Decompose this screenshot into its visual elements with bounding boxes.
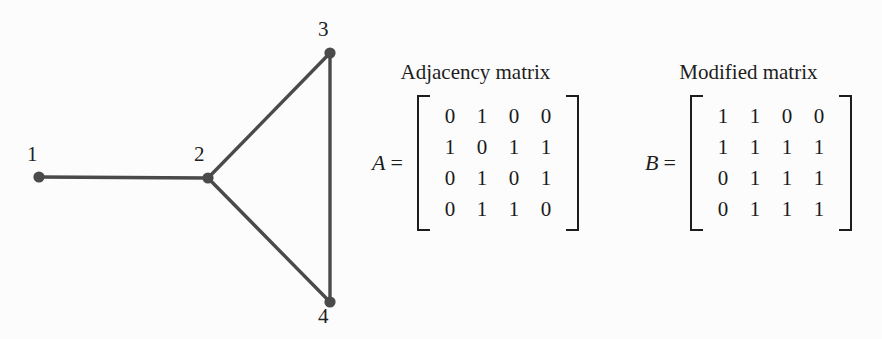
adjacency-matrix-brackets: 0100101101010110 — [417, 95, 579, 231]
graph-edge-group — [39, 53, 330, 302]
modified-matrix-cell-r2c2: 1 — [739, 132, 771, 163]
modified-matrix-row: 0111 — [707, 194, 835, 225]
adjacency-matrix-cell-r2c4: 1 — [530, 132, 562, 163]
modified-matrix-cell-r1c2: 1 — [739, 101, 771, 132]
modified-matrix-cell-r2c4: 1 — [803, 132, 835, 163]
adjacency-matrix-cell-r4c2: 1 — [466, 194, 498, 225]
modified-matrix-expression: B = 1100111101110111 — [645, 95, 852, 231]
adjacency-matrix-cell-r2c1: 1 — [434, 132, 466, 163]
adjacency-matrix-table: 0100101101010110 — [434, 101, 562, 225]
adjacency-matrix-cell-r4c4: 0 — [530, 194, 562, 225]
adjacency-matrix-cell-r1c2: 1 — [466, 101, 498, 132]
modified-matrix-block: Modified matrix B = 1100111101110111 — [645, 62, 852, 231]
figure-root: 1234 Adjacency matrix A = 01001011010101… — [0, 0, 882, 339]
modified-matrix-cell-r3c1: 0 — [707, 163, 739, 194]
modified-matrix-cell-r4c1: 0 — [707, 194, 739, 225]
modified-matrix-table: 1100111101110111 — [707, 101, 835, 225]
graph-node-label-2: 2 — [194, 144, 205, 165]
graph-node-label-3: 3 — [318, 19, 329, 40]
modified-matrix-cell-r4c2: 1 — [739, 194, 771, 225]
modified-matrix-row: 1100 — [707, 101, 835, 132]
adjacency-matrix-cell-r3c1: 0 — [434, 163, 466, 194]
adjacency-matrix-cell-r1c4: 0 — [530, 101, 562, 132]
modified-matrix-symbol: B — [645, 152, 663, 174]
adjacency-matrix-row: 0100 — [434, 101, 562, 132]
modified-matrix-brackets: 1100111101110111 — [690, 95, 852, 231]
adjacency-matrix-cell-r4c1: 0 — [434, 194, 466, 225]
graph-node-3 — [324, 47, 335, 58]
adjacency-matrix-expression: A = 0100101101010110 — [372, 95, 579, 231]
modified-matrix-cell-r2c3: 1 — [771, 132, 803, 163]
adjacency-matrix-cell-r3c3: 0 — [498, 163, 530, 194]
adjacency-matrix-cell-r3c2: 1 — [466, 163, 498, 194]
adjacency-matrix-block: Adjacency matrix A = 0100101101010110 — [372, 62, 579, 231]
graph-drawing — [0, 0, 380, 339]
modified-matrix-cell-r1c3: 0 — [771, 101, 803, 132]
adjacency-matrix-caption: Adjacency matrix — [372, 62, 579, 83]
adjacency-matrix-symbol: A — [372, 152, 390, 174]
graph-node-label-4: 4 — [318, 306, 329, 327]
modified-matrix-cell-r4c3: 1 — [771, 194, 803, 225]
adjacency-matrix-equals-sign: = — [390, 152, 416, 174]
modified-matrix-row: 0111 — [707, 163, 835, 194]
graph-edge-2-4 — [208, 178, 330, 302]
adjacency-matrix-cell-r1c3: 0 — [498, 101, 530, 132]
modified-matrix-cell-r4c4: 1 — [803, 194, 835, 225]
modified-matrix-equals-sign: = — [663, 152, 689, 174]
modified-matrix-cell-r3c3: 1 — [771, 163, 803, 194]
modified-matrix-cell-r3c4: 1 — [803, 163, 835, 194]
adjacency-matrix-row: 1011 — [434, 132, 562, 163]
adjacency-matrix-row: 0101 — [434, 163, 562, 194]
graph-node-1 — [33, 171, 44, 182]
graph-node-2 — [202, 172, 213, 183]
graph-panel: 1234 — [0, 0, 380, 339]
adjacency-matrix-cell-r2c3: 1 — [498, 132, 530, 163]
adjacency-matrix-row: 0110 — [434, 194, 562, 225]
modified-matrix-cell-r1c4: 0 — [803, 101, 835, 132]
modified-matrix-caption: Modified matrix — [645, 62, 852, 83]
modified-matrix-cell-r3c2: 1 — [739, 163, 771, 194]
adjacency-matrix-cell-r1c1: 0 — [434, 101, 466, 132]
adjacency-matrix-cell-r3c4: 1 — [530, 163, 562, 194]
modified-matrix-cell-r1c1: 1 — [707, 101, 739, 132]
graph-node-label-1: 1 — [27, 144, 38, 165]
graph-edge-2-3 — [208, 53, 330, 178]
graph-edge-1-2 — [39, 177, 208, 178]
modified-matrix-cell-r2c1: 1 — [707, 132, 739, 163]
adjacency-matrix-cell-r2c2: 0 — [466, 132, 498, 163]
modified-matrix-row: 1111 — [707, 132, 835, 163]
adjacency-matrix-cell-r4c3: 1 — [498, 194, 530, 225]
